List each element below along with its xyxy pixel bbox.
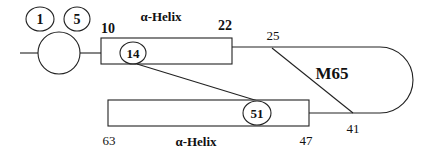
top-helix-end-label: 22 xyxy=(218,18,232,33)
crosslink-label-m65: M65 xyxy=(315,64,348,83)
residue-label-51: 51 xyxy=(251,106,264,121)
bottom-helix-title: α-Helix xyxy=(175,134,217,149)
residue-label-1: 1 xyxy=(37,12,44,27)
n-term-domain-circle xyxy=(38,32,80,74)
bottom-helix-start-label: 63 xyxy=(103,133,116,148)
bottom-helix-box xyxy=(108,100,309,126)
loop-start-label: 25 xyxy=(267,28,280,43)
crosslink-14-51 xyxy=(137,64,258,101)
top-helix-start-label: 10 xyxy=(101,21,115,36)
topology-diagram: 1 5 10 α-Helix 22 14 25 41 M65 63 α-Heli… xyxy=(0,0,435,152)
bottom-helix-end-label: 47 xyxy=(300,133,314,148)
residue-label-14: 14 xyxy=(127,46,141,61)
residue-label-5: 5 xyxy=(74,12,81,27)
top-helix-title: α-Helix xyxy=(140,9,182,24)
loop-end-label: 41 xyxy=(347,121,360,136)
